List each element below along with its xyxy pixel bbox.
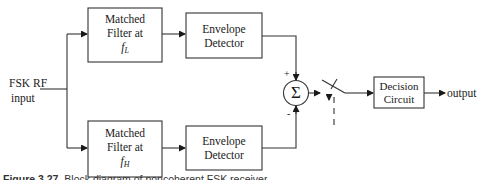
top-envelope-line1: Envelope xyxy=(202,22,245,36)
top-filter-line2: Filter at xyxy=(107,26,143,40)
top-to-summer-line xyxy=(262,36,296,80)
bottom-envelope-detector: Envelope Detector xyxy=(186,126,262,170)
output-label: output xyxy=(447,86,476,100)
top-filter-frequency: fL xyxy=(121,40,129,58)
minus-sign: - xyxy=(287,107,290,121)
top-matched-filter: Matched Filter at fL xyxy=(88,8,162,62)
bottom-filter-frequency: fH xyxy=(121,154,130,172)
decision-line2: Circuit xyxy=(384,93,415,106)
bottom-to-summer-line xyxy=(262,106,296,148)
top-envelope-detector: Envelope Detector xyxy=(186,13,262,58)
top-filter-line1: Matched xyxy=(105,12,145,26)
bottom-filter-line2: Filter at xyxy=(107,140,143,154)
sigma-icon: Σ xyxy=(284,84,308,102)
bottom-envelope-line2: Detector xyxy=(204,148,244,162)
bottom-envelope-line1: Envelope xyxy=(202,134,245,148)
decision-line1: Decision xyxy=(379,80,418,93)
bottom-filter-line1: Matched xyxy=(105,126,145,140)
switch-blade xyxy=(322,80,345,93)
plus-sign: + xyxy=(284,67,290,81)
top-envelope-line2: Detector xyxy=(204,36,244,50)
input-label-line1: FSK RF xyxy=(9,76,47,90)
decision-circuit: Decision Circuit xyxy=(374,77,424,108)
bottom-matched-filter: Matched Filter at fH xyxy=(88,121,162,177)
input-label-line2: input xyxy=(11,91,35,105)
